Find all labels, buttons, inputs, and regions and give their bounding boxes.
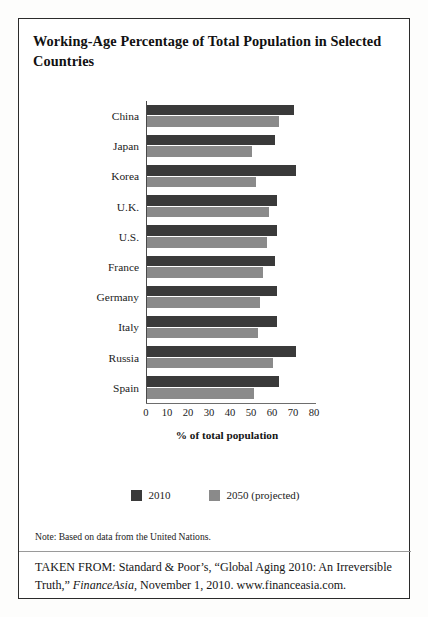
bar-2010 xyxy=(147,256,275,267)
x-tick-label: 40 xyxy=(225,407,236,418)
bar-2010 xyxy=(147,286,277,297)
category-label: Spain xyxy=(113,382,139,394)
category-label: Japan xyxy=(113,140,139,152)
x-tick-label: 80 xyxy=(309,407,320,418)
bar-2050 xyxy=(147,146,252,157)
x-tick-label: 60 xyxy=(267,407,278,418)
bar-group: Italy xyxy=(147,312,314,342)
source-tail: , November 1, 2010. www.financeasia.com. xyxy=(134,578,346,592)
legend-item: 2050 (projected) xyxy=(209,489,300,501)
bar-2050 xyxy=(147,207,269,218)
x-tick-label: 0 xyxy=(143,407,148,418)
bar-2010 xyxy=(147,225,277,236)
bar-2010 xyxy=(147,105,294,116)
bar-group: Spain xyxy=(147,373,314,403)
bar-2010 xyxy=(147,195,277,206)
source-attribution: TAKEN FROM: Standard & Poor’s, “Global A… xyxy=(35,559,395,594)
legend-swatch xyxy=(131,490,142,501)
category-label: Italy xyxy=(118,321,139,333)
bar-2050 xyxy=(147,116,279,127)
bar-group: Korea xyxy=(147,161,314,191)
legend-item: 2010 xyxy=(131,489,171,501)
x-axis-label: % of total population xyxy=(19,429,411,441)
x-tick-label: 30 xyxy=(204,407,215,418)
chart-legend: 20102050 (projected) xyxy=(19,489,411,501)
bar-chart: ChinaJapanKoreaU.K.U.S.FranceGermanyItal… xyxy=(19,97,411,427)
bar-group: Russia xyxy=(147,343,314,373)
bar-2050 xyxy=(147,237,267,248)
x-axis-ticks: 01020304050607080 xyxy=(146,407,314,423)
source-publication: FinanceAsia xyxy=(73,578,134,592)
figure-card: Working-Age Percentage of Total Populati… xyxy=(18,18,410,599)
chart-title: Working-Age Percentage of Total Populati… xyxy=(33,31,383,72)
bar-2010 xyxy=(147,376,279,387)
legend-swatch xyxy=(209,490,220,501)
bar-2010 xyxy=(147,316,277,327)
bar-group: Japan xyxy=(147,131,314,161)
bar-group: China xyxy=(147,101,314,131)
category-label: Russia xyxy=(109,352,139,364)
x-tick-label: 50 xyxy=(246,407,257,418)
bar-2050 xyxy=(147,328,258,339)
category-label: U.S. xyxy=(119,231,139,243)
chart-note: Note: Based on data from the United Nati… xyxy=(35,531,395,542)
bar-2010 xyxy=(147,165,296,176)
bar-2050 xyxy=(147,177,256,188)
bar-2010 xyxy=(147,346,296,357)
bar-2050 xyxy=(147,358,273,369)
bar-2050 xyxy=(147,267,263,278)
x-tick-label: 70 xyxy=(288,407,299,418)
bar-2050 xyxy=(147,297,260,308)
category-label: Germany xyxy=(97,291,139,303)
bar-group: U.S. xyxy=(147,222,314,252)
bar-2050 xyxy=(147,388,254,399)
bar-2010 xyxy=(147,135,275,146)
bar-group: U.K. xyxy=(147,192,314,222)
x-tick-label: 10 xyxy=(162,407,173,418)
category-label: China xyxy=(112,110,139,122)
legend-label: 2050 (projected) xyxy=(227,489,300,501)
category-label: Korea xyxy=(111,170,139,182)
category-label: U.K. xyxy=(117,201,139,213)
legend-label: 2010 xyxy=(149,489,171,501)
x-axis-line xyxy=(146,403,316,404)
divider xyxy=(19,551,411,552)
figure-page: Working-Age Percentage of Total Populati… xyxy=(0,0,428,617)
x-tick-label: 20 xyxy=(183,407,194,418)
bar-group: France xyxy=(147,252,314,282)
bar-group: Germany xyxy=(147,282,314,312)
plot-area: ChinaJapanKoreaU.K.U.S.FranceGermanyItal… xyxy=(146,101,314,403)
category-label: France xyxy=(108,261,139,273)
